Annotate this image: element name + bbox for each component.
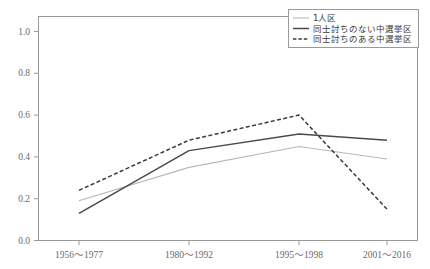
x-tick-label-1: 1980～1992 [165, 250, 213, 260]
y-tick-label-0.6: 0.6 [18, 110, 30, 120]
y-tick-label-0.2: 0.2 [18, 194, 30, 204]
legend-label-2: 同士討ちのある中選挙区 [313, 34, 412, 44]
chart-canvas: 1.0 0.8 0.6 0.4 0.2 0.0 1956～1977 1980～1… [0, 0, 430, 269]
x-axis-ticks [79, 241, 387, 246]
series-group [79, 115, 387, 213]
plot-frame [39, 17, 418, 241]
x-axis-tick-labels: 1956～1977 1980～1992 1995～1998 2001～2016 [55, 250, 411, 260]
legend-label-1: 同士討ちのない中選挙区 [313, 24, 412, 34]
y-tick-label-0.0: 0.0 [18, 236, 30, 246]
y-axis-tick-labels: 1.0 0.8 0.6 0.4 0.2 0.0 [18, 27, 30, 246]
y-axis-ticks [34, 32, 39, 241]
x-tick-label-3: 2001～2016 [363, 250, 411, 260]
series-line-0 [79, 146, 387, 200]
y-tick-label-1.0: 1.0 [18, 27, 30, 37]
x-tick-label-0: 1956～1977 [55, 250, 103, 260]
legend-label-0: 1人区 [313, 13, 336, 23]
series-line-2 [79, 115, 387, 209]
y-tick-label-0.4: 0.4 [18, 152, 30, 162]
series-line-1 [79, 134, 387, 213]
line-chart: 1.0 0.8 0.6 0.4 0.2 0.0 1956～1977 1980～1… [0, 0, 430, 269]
legend: 1人区 同士討ちのない中選挙区 同士討ちのある中選挙区 [289, 10, 419, 48]
x-tick-label-2: 1995～1998 [275, 250, 323, 260]
y-tick-label-0.8: 0.8 [18, 68, 30, 78]
